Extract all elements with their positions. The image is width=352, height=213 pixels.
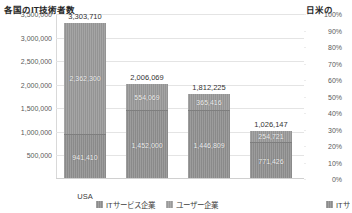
bar-segment[interactable]: 1,452,000 [126,111,168,179]
legend-secondary: ITサ [326,199,352,210]
legend-item[interactable]: ITサ [326,199,350,210]
bar-segment-label: 365,416 [188,98,230,105]
legend-primary: ITサービス企業ユーザー企業 [96,199,229,210]
y-axis-tick-label: 3,000,000 [21,34,52,41]
y-axis-tick-label: 500,000 [27,152,52,159]
y-axis-right: 100%90%80%70%60%50%40%30%20%10%0% [306,14,346,179]
bar-group[interactable]: 1,812,225365,4161,446,809India [188,94,230,179]
bar-segment[interactable]: 941,410 [64,135,106,179]
y-axis-right-tick-label: 20% [328,143,342,150]
y-axis-right-tick-label: 30% [328,126,342,133]
x-axis-line [56,178,304,179]
legend-label: ユーザー企業 [176,199,218,210]
bar-segment[interactable]: 2,362,300 [64,23,106,134]
bar-segment-label: 554,069 [126,94,168,101]
chart-screenshot: 各国のIT技術者数 日米の 3,500,0003,000,0002,500,00… [0,0,352,213]
gridline-right [304,113,306,114]
bar-total-label: 1,026,147 [242,120,300,129]
y-axis-tick-label: 1,500,000 [21,105,52,112]
bar-segment-label: 941,410 [64,153,106,160]
bar-segment-label: 1,452,000 [126,141,168,148]
gridline-right [304,80,306,81]
y-axis-tick-label: 2,500,000 [21,58,52,65]
legend-swatch-icon [96,201,103,208]
y-axis-right-tick-label: 60% [328,77,342,84]
gridline-right [304,130,306,131]
bar-segment-label: 771,426 [250,157,292,164]
legend-item[interactable]: ユーザー企業 [166,199,218,210]
bar-group[interactable]: 2,006,069554,0691,452,000China [126,84,168,179]
y-axis-left: 3,500,0003,000,0002,500,0002,000,0001,50… [0,14,55,179]
bar-segment[interactable]: 771,426 [250,143,292,179]
y-axis-tick-label: 2,000,000 [21,81,52,88]
plot-area: 3,303,7102,362,300941,410USA2,006,069554… [56,14,304,179]
y-axis-line [56,14,57,179]
y-axis-right-tick-label: 50% [328,93,342,100]
legend-swatch-icon [166,201,173,208]
legend-swatch-icon [326,201,333,208]
gridline-right [304,47,306,48]
y-axis-right-tick-label: 100% [324,11,342,18]
primary-chart-panel: 3,500,0003,000,0002,500,0002,000,0001,50… [0,14,305,196]
gridline-right [304,31,306,32]
y-axis-right-tick-label: 80% [328,44,342,51]
gridline-right [304,179,306,180]
bar-total-label: 2,006,069 [118,73,176,82]
y-axis-tick-label: 1,000,000 [21,128,52,135]
gridline-right [304,163,306,164]
bar-total-label: 1,812,225 [180,83,238,92]
y-axis-right-tick-label: 70% [328,60,342,67]
secondary-chart-panel: 100%90%80%70%60%50%40%30%20%10%0% [306,14,352,196]
y-axis-right-tick-label: 10% [328,159,342,166]
y-axis-right-tick-label: 90% [328,27,342,34]
bar-segment-label: 1,446,809 [188,141,230,148]
legend-item[interactable]: ITサービス企業 [96,199,155,210]
bar-segment[interactable]: 1,446,809 [188,111,230,179]
gridline-right [304,146,306,147]
y-axis-right-tick-label: 40% [328,110,342,117]
gridline-right [304,97,306,98]
y-axis-tick-label: 3,500,000 [21,11,52,18]
y-axis-right-tick-label: 0% [332,176,342,183]
bar-total-label: 3,303,710 [56,12,114,21]
bar-group[interactable]: 1,026,147254,721771,426Japan [250,131,292,179]
bar-segment-label: 254,721 [250,133,292,140]
bar-group[interactable]: 3,303,7102,362,300941,410USA [64,23,106,179]
gridline-right [304,14,306,15]
legend-label: ITサ [336,199,350,210]
gridline-right [304,64,306,65]
legend-label: ITサービス企業 [106,199,155,210]
bar-segment[interactable]: 365,416 [188,94,230,111]
bar-segment[interactable]: 554,069 [126,84,168,110]
bar-segment[interactable]: 254,721 [250,131,292,143]
bar-segment-label: 2,362,300 [64,75,106,82]
